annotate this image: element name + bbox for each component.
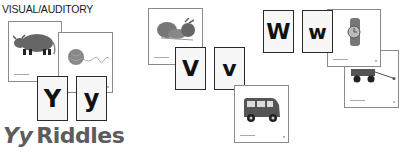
section-heading: VISUAL/AUDITORY <box>2 3 93 15</box>
card-label-line <box>240 135 255 136</box>
title-word: Riddles <box>36 123 124 148</box>
yarn-icon <box>67 47 111 69</box>
letter-card-w: w <box>302 10 333 53</box>
card-label-line <box>350 100 365 101</box>
picture-card-watch <box>327 9 381 67</box>
picture-card-van <box>234 85 289 143</box>
card-number <box>283 136 285 138</box>
title-letters: Yy <box>3 123 32 148</box>
letter-V: V <box>182 56 199 81</box>
letter-y: y <box>84 85 100 113</box>
van-icon <box>242 97 282 123</box>
vegetables-icon <box>155 18 199 42</box>
letter-card-V: V <box>175 47 206 90</box>
letter-Y: Y <box>44 85 61 113</box>
letter-card-v: v <box>214 47 245 90</box>
watch-icon <box>345 18 365 46</box>
letter-card-Y: Y <box>37 76 68 121</box>
letter-card-y: y <box>76 76 107 121</box>
card-number <box>393 101 395 103</box>
picture-card-yak <box>8 21 62 82</box>
card-label-line <box>154 57 169 58</box>
letter-w: w <box>308 20 326 44</box>
card-number <box>375 60 377 62</box>
wagon-icon <box>351 68 397 84</box>
letter-card-W: W <box>263 10 294 53</box>
card-number <box>107 86 109 88</box>
card-label-line <box>14 74 29 75</box>
card-label-line <box>333 59 348 60</box>
yak-icon <box>13 32 57 58</box>
page-title: YyRiddles <box>3 123 124 148</box>
letter-W: W <box>266 19 290 44</box>
letter-v: v <box>222 56 236 81</box>
